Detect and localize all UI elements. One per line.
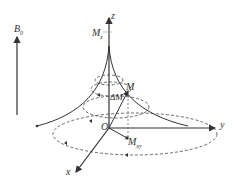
envelope-curve — [37, 46, 109, 126]
mxy-vector — [109, 128, 127, 138]
z-axis-label: z — [111, 11, 115, 21]
mxy-label: Mxy — [128, 137, 142, 149]
m-label: M — [126, 82, 134, 92]
y-axis-label: y — [220, 120, 224, 130]
mz-label: Mz — [92, 28, 103, 40]
b0-label: B0 — [14, 24, 23, 36]
origin-label: O — [101, 122, 108, 132]
envelope-curve — [109, 46, 188, 126]
x-axis-label: x — [66, 167, 70, 177]
delta-m-label: ΔM — [110, 93, 123, 102]
